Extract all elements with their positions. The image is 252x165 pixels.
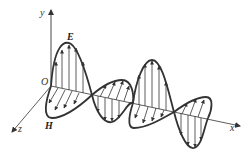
electric-field-wave	[51, 43, 208, 148]
e-loop-4	[174, 112, 208, 148]
h-loop-1	[46, 86, 92, 118]
z-axis-label: z	[17, 123, 22, 134]
labels: y E O H z x	[17, 7, 235, 134]
x-axis-label: x	[229, 122, 235, 133]
em-wave-diagram: y E O H z x	[0, 0, 252, 165]
electric-field-label: E	[66, 31, 74, 42]
y-axis-label: y	[39, 7, 45, 18]
origin-label: O	[41, 76, 48, 87]
magnetic-field-label: H	[44, 120, 54, 131]
